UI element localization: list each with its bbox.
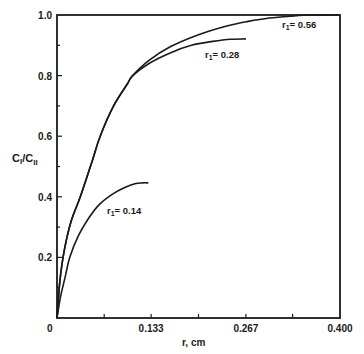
curve-r1-0-56	[57, 15, 340, 318]
curve-label-r1-0-56: r1= 0.56	[282, 19, 316, 31]
x-tick-label: 0.400	[327, 323, 352, 334]
curve-r1-0-14	[57, 183, 148, 318]
y-tick-label: 0.2	[38, 252, 52, 263]
x-tick-label: 0	[47, 323, 53, 334]
chart: 00.1330.2670.4000.20.40.60.81.0 r1= 0.56…	[0, 0, 364, 354]
y-tick-label: 0.8	[38, 71, 52, 82]
y-tick-label: 0.6	[38, 131, 52, 142]
tick-labels: 00.1330.2670.4000.20.40.60.81.0	[38, 10, 353, 334]
x-tick-label: 0.133	[139, 323, 164, 334]
curve-label-r1-0-28: r1= 0.28	[205, 49, 239, 61]
plot-frame	[57, 15, 340, 318]
y-axis-title: CI/CII	[12, 152, 38, 167]
x-axis-title: r, cm	[182, 337, 205, 348]
curve-r1-0-28	[57, 39, 246, 318]
y-tick-label: 1.0	[38, 10, 52, 21]
y-tick-label: 0.4	[38, 192, 52, 203]
ticks	[57, 45, 293, 318]
axes-box	[57, 15, 340, 318]
curves	[57, 15, 340, 318]
x-tick-label: 0.267	[233, 323, 258, 334]
curve-label-r1-0-14: r1= 0.14	[107, 205, 142, 217]
